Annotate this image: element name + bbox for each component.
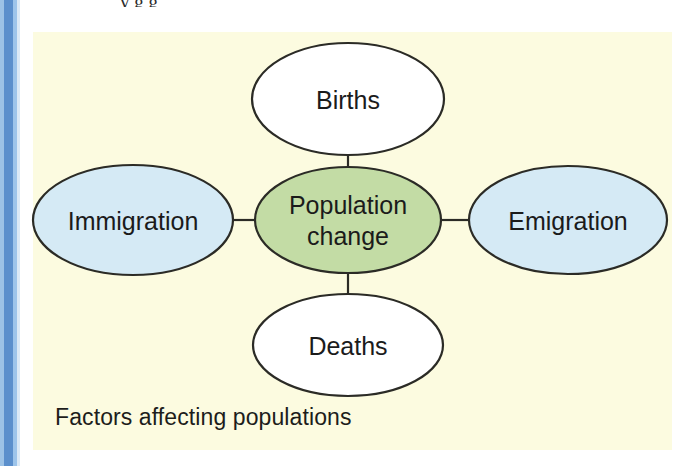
node-deaths-label: Deaths: [308, 332, 387, 360]
node-deaths[interactable]: Deaths: [253, 294, 443, 396]
node-immigration-label: Immigration: [68, 207, 199, 235]
figure-page: y g g Births Immigration Population chan…: [0, 0, 685, 466]
node-births[interactable]: Births: [252, 43, 444, 155]
node-births-label: Births: [316, 86, 380, 114]
node-population-change-shape: [255, 167, 441, 273]
node-immigration[interactable]: Immigration: [33, 165, 233, 275]
figure-caption: Factors affecting populations: [55, 404, 352, 431]
node-emigration[interactable]: Emigration: [469, 166, 667, 274]
node-emigration-label: Emigration: [508, 207, 628, 235]
population-change-diagram: Births Immigration Population change Emi…: [0, 0, 685, 466]
node-population-change[interactable]: Population change: [255, 167, 441, 273]
node-population-change-label-line2: change: [307, 222, 389, 250]
node-population-change-label-line1: Population: [289, 191, 407, 219]
